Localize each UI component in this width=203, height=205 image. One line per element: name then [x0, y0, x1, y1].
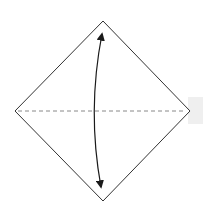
origami-diagram [0, 0, 203, 205]
